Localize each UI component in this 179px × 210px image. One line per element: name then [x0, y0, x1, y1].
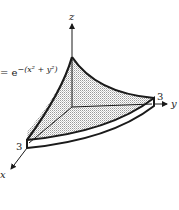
x-tick-label: 3	[16, 141, 22, 152]
y-tick-label: 3	[157, 91, 163, 102]
x-axis-label: x	[0, 169, 6, 180]
equation-prefix: = e	[0, 67, 18, 78]
surface-diagram: z y x 3 3 = e−(x² + y²)	[0, 0, 179, 210]
equation-label: = e−(x² + y²)	[0, 65, 58, 78]
z-axis-label: z	[68, 11, 75, 22]
y-axis-label: y	[170, 98, 177, 109]
equation-exponent: −(x² + y²)	[17, 65, 57, 74]
side-face-yz	[72, 57, 154, 107]
